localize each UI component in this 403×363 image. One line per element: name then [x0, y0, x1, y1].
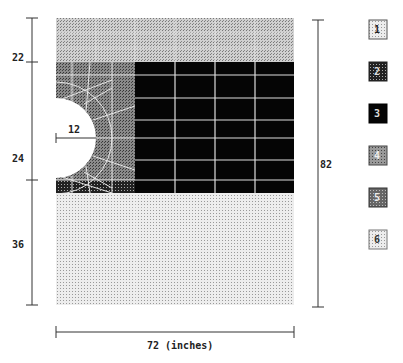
bottom-dimension-line — [56, 326, 294, 338]
legend-label-5: 5 — [374, 192, 380, 203]
legend-label-1: 1 — [374, 24, 380, 35]
legend-label-6: 6 — [374, 234, 380, 245]
legend-label-2: 2 — [374, 66, 380, 77]
plate — [56, 18, 294, 305]
dim-label-top: 22 — [12, 52, 24, 63]
region-hole-bottom-strip — [56, 180, 135, 193]
dim-label-bottom: 36 — [12, 239, 24, 250]
hole-radius-label: 12 — [68, 124, 80, 135]
dim-label-height: 82 — [320, 159, 332, 170]
legend-label-3: 3 — [374, 108, 380, 119]
mesh-diagram: 22 24 36 12 82 72 (inches) 1 2 3 4 5 6 — [0, 0, 403, 363]
region-bottom — [56, 193, 294, 305]
dim-label-middle: 24 — [12, 153, 24, 164]
dim-label-width: 72 (inches) — [147, 340, 213, 351]
mesh-svg — [0, 0, 403, 363]
left-dimension-line — [26, 18, 38, 305]
legend-label-4: 4 — [374, 150, 380, 161]
